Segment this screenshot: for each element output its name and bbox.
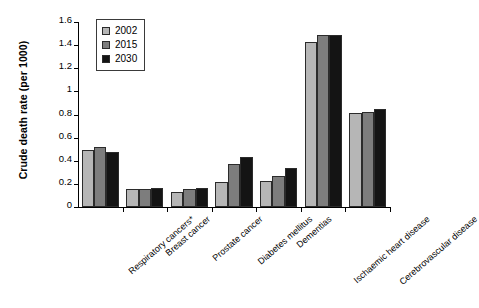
y-tick-mark: [74, 138, 78, 139]
y-axis-line: [78, 22, 79, 208]
y-tick-label: 0.6: [59, 131, 72, 141]
y-tick-mark: [74, 45, 78, 46]
bar: [139, 189, 151, 208]
x-tick-mark: [390, 207, 391, 212]
y-tick-mark: [74, 91, 78, 92]
bar: [171, 192, 183, 207]
bar: [151, 188, 163, 207]
bar: [272, 176, 284, 207]
bar: [374, 109, 386, 207]
legend-swatch: [102, 55, 110, 63]
bar: [126, 189, 138, 208]
bar: [349, 113, 361, 207]
legend: 200220152030: [96, 19, 145, 71]
y-tick-mark: [74, 184, 78, 185]
bar: [362, 112, 374, 207]
bar: [285, 168, 297, 207]
legend-label: 2015: [115, 40, 137, 50]
x-tick-mark: [167, 207, 168, 212]
y-axis-title: Crude death rate (per 1000): [17, 15, 29, 205]
legend-item: 2002: [102, 24, 137, 38]
y-tick-label: 1: [67, 84, 72, 94]
x-axis-label: Prostate cancer: [210, 214, 264, 263]
x-axis-line: [78, 207, 391, 208]
bar: [215, 182, 227, 207]
bar: [305, 42, 317, 207]
y-tick-mark: [74, 22, 78, 23]
bar: [260, 181, 272, 207]
y-tick-label: 0.8: [59, 108, 72, 118]
legend-label: 2002: [115, 26, 137, 36]
bar-group: [171, 22, 208, 207]
bar-group: [305, 22, 342, 207]
x-tick-mark: [256, 207, 257, 212]
y-tick-mark: [74, 115, 78, 116]
bar: [329, 35, 341, 207]
bar: [183, 189, 195, 207]
legend-swatch: [102, 27, 110, 35]
bar-group: [215, 22, 252, 207]
legend-item: 2015: [102, 38, 137, 52]
y-tick-mark: [74, 161, 78, 162]
bar: [317, 35, 329, 207]
bar: [106, 152, 118, 207]
x-axis-label: Respiratory cancers*: [126, 214, 196, 276]
bar-group: [260, 22, 297, 207]
x-axis-label: Ischaemic heart disease: [352, 214, 432, 285]
bar: [196, 188, 208, 207]
y-tick-label: 0.2: [59, 177, 72, 187]
y-tick-label: 0: [67, 200, 72, 210]
y-tick-label: 0.4: [59, 154, 72, 164]
bar: [82, 150, 94, 207]
x-tick-mark: [123, 207, 124, 212]
bar: [94, 147, 106, 207]
x-tick-mark: [345, 207, 346, 212]
y-tick-label: 1.2: [59, 61, 72, 71]
bar: [240, 157, 252, 207]
y-tick-label: 1.4: [59, 38, 72, 48]
bar-group: [349, 22, 386, 207]
x-tick-mark: [301, 207, 302, 212]
bar: [228, 164, 240, 207]
y-tick-mark: [74, 68, 78, 69]
legend-label: 2030: [115, 54, 137, 64]
legend-swatch: [102, 41, 110, 49]
y-tick-mark: [74, 207, 78, 208]
legend-item: 2030: [102, 52, 137, 66]
y-tick-label: 1.6: [59, 15, 72, 25]
x-axis-label: Cerebrovascular disease: [397, 214, 479, 287]
x-tick-mark: [212, 207, 213, 212]
